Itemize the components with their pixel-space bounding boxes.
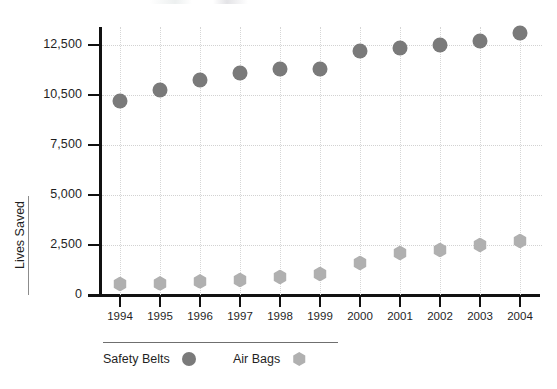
gridline-vertical xyxy=(480,27,482,295)
data-point-safety-belts xyxy=(473,34,488,49)
gridline-vertical xyxy=(360,27,362,295)
legend-divider xyxy=(103,342,338,343)
x-tick-mark xyxy=(359,297,361,307)
data-point-air-bags xyxy=(273,270,288,285)
x-tick-label: 1998 xyxy=(258,310,302,322)
data-point-air-bags xyxy=(353,256,368,271)
x-tick-label: 2004 xyxy=(498,310,542,322)
x-tick-mark xyxy=(479,297,481,307)
data-point-safety-belts xyxy=(113,94,128,109)
x-axis-line xyxy=(88,294,540,297)
y-axis-title: Lives Saved xyxy=(8,196,28,296)
y-axis-title-label: Lives Saved xyxy=(13,185,27,285)
x-tick-label: 1995 xyxy=(138,310,182,322)
legend-item-safety-belts: Safety Belts xyxy=(103,352,196,366)
data-point-safety-belts xyxy=(513,26,528,41)
x-tick-label: 2002 xyxy=(418,310,462,322)
x-tick-mark xyxy=(319,297,321,307)
y-tick-mark xyxy=(88,44,100,46)
lives-saved-scatter-chart: Lives Saved 02,5005,0007,50010,50012,500… xyxy=(0,0,557,389)
x-tick-mark xyxy=(239,297,241,307)
y-tick-label: 0 xyxy=(75,287,82,301)
x-tick-mark xyxy=(399,297,401,307)
legend-label-safety-belts: Safety Belts xyxy=(103,352,170,366)
legend-item-air-bags: Air Bags xyxy=(233,352,306,366)
data-point-safety-belts xyxy=(353,44,368,59)
legend-label-air-bags: Air Bags xyxy=(233,352,280,366)
y-axis-line xyxy=(99,27,102,297)
y-tick-label: 10,500 xyxy=(43,87,82,101)
x-tick-label: 1999 xyxy=(298,310,342,322)
data-point-safety-belts xyxy=(193,73,208,88)
data-point-safety-belts xyxy=(233,66,248,81)
y-tick-mark xyxy=(88,144,100,146)
x-tick-mark xyxy=(519,297,521,307)
data-point-air-bags xyxy=(393,246,408,261)
circle-marker-icon xyxy=(182,352,196,366)
data-point-air-bags xyxy=(233,273,248,288)
hexagon-marker-icon xyxy=(292,352,306,366)
y-axis-title-rule xyxy=(28,196,29,295)
gridline-horizontal xyxy=(102,195,542,197)
x-tick-mark xyxy=(159,297,161,307)
data-point-safety-belts xyxy=(433,38,448,53)
x-tick-mark xyxy=(119,297,121,307)
gridline-vertical xyxy=(200,27,202,295)
y-tick-label: 5,000 xyxy=(50,187,82,201)
x-tick-label: 2000 xyxy=(338,310,382,322)
y-tick-mark xyxy=(88,94,100,96)
data-point-air-bags xyxy=(313,267,328,282)
data-point-safety-belts xyxy=(393,41,408,56)
x-tick-label: 2003 xyxy=(458,310,502,322)
gridline-horizontal xyxy=(102,95,542,97)
x-tick-label: 1997 xyxy=(218,310,262,322)
x-tick-label: 1996 xyxy=(178,310,222,322)
y-tick-label: 12,500 xyxy=(43,37,82,51)
y-tick-mark xyxy=(88,244,100,246)
gridline-vertical xyxy=(160,27,162,295)
y-tick-mark xyxy=(88,294,100,296)
chart-legend: Safety Belts Air Bags xyxy=(103,352,363,374)
gridline-horizontal xyxy=(102,145,542,147)
x-tick-mark xyxy=(439,297,441,307)
data-point-air-bags xyxy=(473,238,488,253)
x-tick-label: 2001 xyxy=(378,310,422,322)
data-point-safety-belts xyxy=(313,62,328,77)
x-tick-mark xyxy=(199,297,201,307)
cropped-title-artifact xyxy=(150,0,290,4)
y-tick-mark xyxy=(88,194,100,196)
data-point-air-bags xyxy=(113,277,128,292)
data-point-air-bags xyxy=(193,274,208,289)
data-point-safety-belts xyxy=(153,83,168,98)
x-tick-label: 1994 xyxy=(98,310,142,322)
x-tick-mark xyxy=(279,297,281,307)
y-tick-label: 7,500 xyxy=(50,137,82,151)
data-point-air-bags xyxy=(153,276,168,291)
gridline-vertical xyxy=(120,27,122,295)
y-tick-label: 2,500 xyxy=(50,237,82,251)
gridline-vertical xyxy=(520,27,522,295)
data-point-safety-belts xyxy=(273,62,288,77)
